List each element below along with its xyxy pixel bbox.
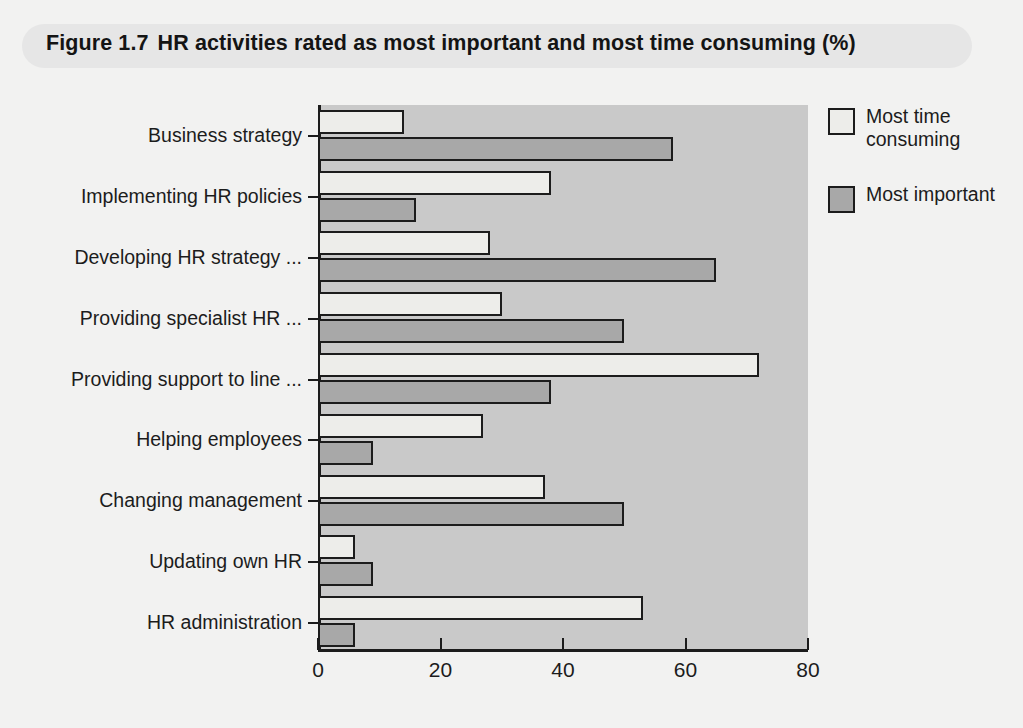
category-label: Changing management	[99, 489, 302, 512]
bar-most-important	[318, 319, 624, 343]
figure-container: Figure 1.7HR activities rated as most im…	[0, 0, 1023, 728]
x-axis-tick	[562, 638, 564, 650]
x-axis-tick	[807, 638, 809, 650]
y-axis-tick	[308, 500, 318, 502]
bar-time-consuming	[318, 171, 551, 195]
x-axis-tick-label: 0	[312, 658, 324, 682]
bar-time-consuming	[318, 596, 643, 620]
bar-most-important	[318, 441, 373, 465]
x-axis-tick-label: 40	[551, 658, 574, 682]
x-axis-tick-label: 80	[796, 658, 819, 682]
bar-chart: 020406080 Business strategyImplementing …	[0, 88, 1023, 688]
bar-time-consuming	[318, 292, 502, 316]
bar-time-consuming	[318, 231, 490, 255]
y-axis-tick	[308, 439, 318, 441]
y-axis-tick	[308, 318, 318, 320]
bar-most-important	[318, 502, 624, 526]
category-label: Providing support to line ...	[71, 367, 302, 390]
legend-swatch-most-important-icon	[828, 186, 855, 213]
figure-number: Figure 1.7	[46, 31, 149, 55]
bar-time-consuming	[318, 353, 759, 377]
y-axis-tick	[308, 135, 318, 137]
bar-most-important	[318, 380, 551, 404]
category-label: Developing HR strategy ...	[74, 245, 302, 268]
y-axis-tick	[308, 379, 318, 381]
figure-title-text: HR activities rated as most important an…	[158, 31, 856, 55]
y-axis-tick	[308, 196, 318, 198]
legend-item-most-important: Most important	[828, 183, 995, 213]
bar-time-consuming	[318, 110, 404, 134]
y-axis-tick	[308, 622, 318, 624]
x-axis-tick-label: 60	[674, 658, 697, 682]
category-label: Business strategy	[148, 124, 302, 147]
x-axis-tick	[685, 638, 687, 650]
page-title: Figure 1.7HR activities rated as most im…	[46, 31, 856, 56]
legend-label-most-important: Most important	[866, 183, 995, 206]
x-axis-tick-label: 20	[429, 658, 452, 682]
legend-label-time-consuming: Most time consuming	[866, 105, 1006, 151]
category-label: Helping employees	[136, 428, 302, 451]
legend-swatch-time-consuming-icon	[828, 108, 855, 135]
y-axis-tick	[308, 257, 318, 259]
bar-most-important	[318, 562, 373, 586]
bar-time-consuming	[318, 475, 545, 499]
category-label: Updating own HR	[149, 549, 302, 572]
y-axis-tick	[308, 561, 318, 563]
category-label: Providing specialist HR ...	[80, 306, 302, 329]
legend-item-time-consuming: Most time consuming	[828, 105, 1006, 151]
bar-time-consuming	[318, 535, 355, 559]
category-label: Implementing HR policies	[81, 185, 302, 208]
bar-most-important	[318, 198, 416, 222]
x-axis-tick	[440, 638, 442, 650]
category-label: HR administration	[147, 610, 302, 633]
bar-most-important	[318, 258, 716, 282]
bar-most-important	[318, 623, 355, 647]
bar-most-important	[318, 137, 673, 161]
bar-time-consuming	[318, 414, 483, 438]
